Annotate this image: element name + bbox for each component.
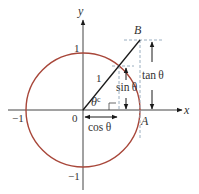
y-tick-neg1: −1 bbox=[68, 170, 80, 182]
origin-label: 0 bbox=[72, 112, 78, 124]
y-axis-label: y bbox=[77, 4, 84, 18]
tan-label: tan θ bbox=[142, 69, 164, 81]
sin-label: sin θ bbox=[116, 81, 138, 93]
y-tick-1: 1 bbox=[74, 42, 80, 54]
cos-label: cos θ bbox=[88, 121, 112, 133]
unit-circle-diagram: y x 1 −1 −1 0 B A 1 θc sin θ tan θ cos θ bbox=[0, 0, 199, 194]
radius-label: 1 bbox=[96, 72, 102, 84]
point-b-label: B bbox=[134, 23, 142, 37]
right-angle-marker bbox=[109, 103, 116, 110]
x-axis-label: x bbox=[183, 103, 190, 117]
point-a-label: A bbox=[140, 114, 149, 128]
angle-superscript: c bbox=[97, 95, 101, 104]
x-tick-neg1: −1 bbox=[12, 112, 24, 124]
angle-label: θc bbox=[91, 95, 101, 109]
